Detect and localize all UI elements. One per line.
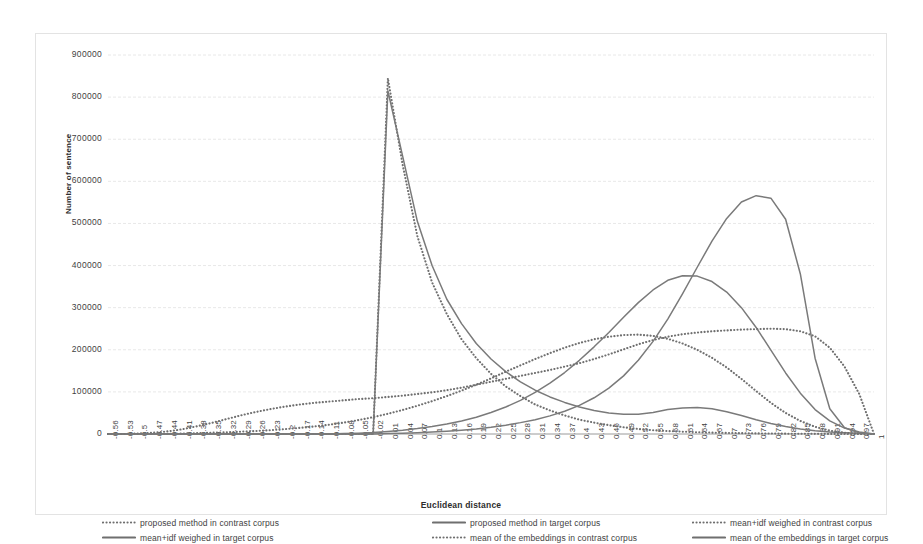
series-line xyxy=(108,329,874,434)
chart-legend: proposed method in contrast corpus propo… xyxy=(74,515,922,544)
legend-label: proposed method in target corpus xyxy=(470,518,600,528)
legend-key-dotted-icon xyxy=(432,533,466,542)
legend-key-dotted-icon xyxy=(692,518,726,527)
series-line xyxy=(108,196,874,434)
legend-label: mean of the embeddings in target corpus xyxy=(730,533,888,543)
legend-label: mean+idf weighed in target corpus xyxy=(140,533,273,543)
legend-row: mean+idf weighed in target corpus mean o… xyxy=(74,530,922,544)
legend-item-5[interactable]: mean of the embeddings in target corpus xyxy=(692,533,888,543)
legend-label: mean of the embeddings in contrast corpu… xyxy=(470,533,637,543)
legend-item-1[interactable]: proposed method in target corpus xyxy=(432,518,692,528)
plot-area xyxy=(36,34,888,516)
legend-row: proposed method in contrast corpus propo… xyxy=(74,515,922,530)
legend-item-3[interactable]: mean+idf weighed in target corpus xyxy=(74,533,432,543)
gridlines xyxy=(108,55,874,434)
legend-key-solid-icon xyxy=(102,533,136,542)
chart-container: Number of sentence 010000020000030000040… xyxy=(35,33,887,515)
series-line xyxy=(108,78,874,434)
legend-item-4[interactable]: mean of the embeddings in contrast corpu… xyxy=(432,533,692,543)
legend-key-dotted-icon xyxy=(102,518,136,527)
legend-label: mean+idf weighed in contrast corpus xyxy=(730,518,872,528)
legend-item-2[interactable]: mean+idf weighed in contrast corpus xyxy=(692,518,872,528)
legend-item-0[interactable]: proposed method in contrast corpus xyxy=(74,518,432,528)
legend-label: proposed method in contrast corpus xyxy=(140,518,279,528)
legend-key-solid-icon xyxy=(692,533,726,542)
series-lines xyxy=(108,78,874,434)
x-axis-title: Euclidean distance xyxy=(36,500,886,510)
series-line xyxy=(108,91,874,434)
legend-key-solid-icon xyxy=(432,518,466,527)
series-line xyxy=(108,276,874,434)
